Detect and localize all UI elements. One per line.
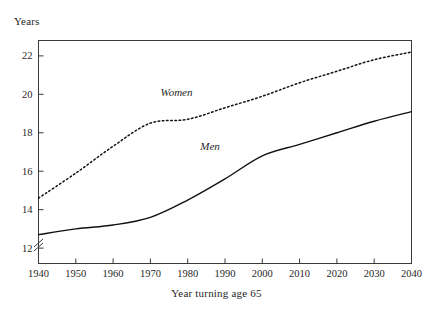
y-tick-label: 16	[22, 166, 33, 177]
y-axis-tick-labels: 121416182022	[22, 50, 33, 253]
plot-frame	[39, 41, 412, 264]
line-chart-plot: 121416182022 194019501960197019801990200…	[0, 0, 433, 318]
y-tick-label: 20	[22, 89, 33, 100]
x-axis-title: Year turning age 65	[0, 287, 433, 299]
series-label-men: Men	[199, 140, 220, 152]
x-axis-ticks	[39, 259, 412, 264]
x-tick-label: 2010	[289, 268, 310, 279]
x-axis-tick-labels: 1940195019601970198019902000201020202030…	[28, 268, 422, 279]
series-line-women	[39, 52, 412, 198]
y-tick-label: 18	[22, 127, 33, 138]
chart-figure: Years 121416182022 194019501960197019801…	[0, 0, 433, 318]
x-tick-label: 1960	[103, 268, 124, 279]
x-tick-label: 1950	[65, 268, 86, 279]
x-tick-label: 1990	[215, 268, 236, 279]
x-tick-label: 2040	[401, 268, 422, 279]
y-tick-label: 14	[22, 204, 33, 215]
x-tick-label: 1970	[140, 268, 161, 279]
series-label-women: Women	[161, 86, 193, 98]
x-tick-label: 2030	[364, 268, 385, 279]
y-tick-label: 12	[22, 243, 33, 254]
x-tick-label: 1980	[177, 268, 198, 279]
series-line-men	[39, 112, 412, 235]
x-tick-label: 2000	[252, 268, 273, 279]
x-tick-label: 2020	[326, 268, 347, 279]
y-tick-label: 22	[22, 50, 33, 61]
y-axis-ticks	[39, 56, 44, 248]
x-tick-label: 1940	[28, 268, 49, 279]
